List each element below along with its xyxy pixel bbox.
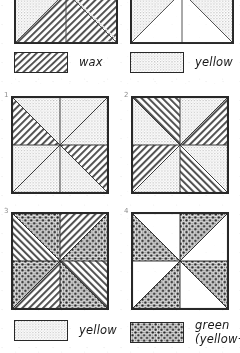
legend-yellow-bottom-label: yellow — [79, 325, 117, 337]
legend-wax-label: wax — [79, 57, 103, 69]
top-right-diagram — [130, 0, 234, 44]
panel-4 — [131, 212, 229, 310]
panel-1 — [11, 96, 109, 194]
legend-yellow-top-label: yellow — [195, 57, 233, 69]
legend-green-sublabel: (yellow+ — [195, 334, 240, 346]
top-left-diagram — [14, 0, 118, 44]
panel-4-square — [131, 212, 229, 310]
panel-1-square — [11, 96, 109, 194]
figure-page: wax yellow 1 — [0, 0, 240, 353]
legend-green-label: green — [195, 320, 240, 332]
legend-wax-swatch — [14, 52, 68, 73]
panel-4-number: 4 — [124, 208, 128, 215]
panel-2-number: 2 — [124, 92, 128, 99]
legend-wax: wax — [14, 52, 103, 73]
top-right-square — [130, 0, 234, 44]
panel-1-number: 1 — [4, 92, 8, 99]
panel-3 — [11, 212, 109, 310]
top-left-square — [14, 0, 118, 44]
legend-yellow-bottom-swatch — [14, 320, 68, 341]
legend-green-swatch — [130, 322, 184, 343]
legend-yellow-top-swatch — [130, 52, 184, 73]
legend-green: green (yellow+ — [130, 320, 240, 345]
panel-2 — [131, 96, 229, 194]
legend-yellow-top: yellow — [130, 52, 233, 73]
panel-2-square — [131, 96, 229, 194]
panel-3-square — [11, 212, 109, 310]
panel-3-number: 3 — [4, 208, 8, 215]
legend-yellow-bottom: yellow — [14, 320, 117, 341]
